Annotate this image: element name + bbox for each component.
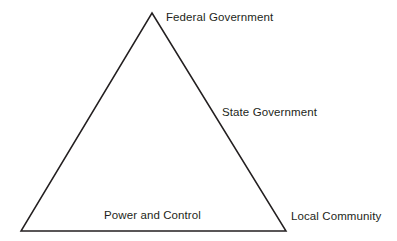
label-power-and-control: Power and Control (104, 209, 201, 222)
triangle-outline (21, 13, 286, 231)
label-local-community: Local Community (291, 210, 381, 223)
triangle-shape (0, 0, 397, 241)
label-state-government: State Government (222, 106, 317, 119)
diagram-canvas: Federal Government State Government Powe… (0, 0, 397, 241)
label-federal-government: Federal Government (166, 11, 273, 24)
